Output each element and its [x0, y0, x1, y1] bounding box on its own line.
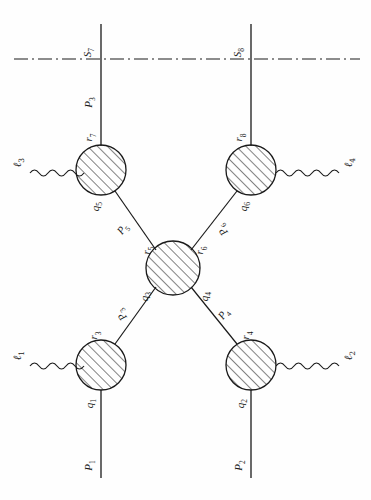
label-q6: q6 [237, 202, 252, 211]
diagonal-upper-right [191, 191, 237, 250]
label-l1: ℓ1 [11, 351, 26, 360]
label-q2: q2 [234, 399, 249, 408]
label-r3: r3 [87, 332, 102, 340]
label-r8: r8 [232, 134, 247, 142]
blob-upper-left [76, 145, 126, 195]
label-r4: r4 [239, 332, 254, 340]
label-l4: ℓ4 [342, 158, 357, 167]
label-l2: ℓ2 [342, 351, 357, 360]
blob-lower-left [76, 340, 126, 390]
wavy-line-upper-right [276, 170, 339, 176]
label-p2: P2 [232, 460, 247, 470]
label-q5: q5 [89, 202, 104, 211]
label-r6: r6 [193, 247, 208, 255]
label-r5: r5 [140, 247, 155, 255]
label-p1: P1 [82, 460, 97, 470]
label-q3: q3 [138, 292, 153, 301]
label-l3: ℓ3 [11, 158, 26, 167]
label-s7: S7 [81, 48, 96, 57]
label-p3-upper: P3 [82, 97, 97, 107]
label-r7: r7 [82, 134, 97, 142]
blob-lower-right [226, 340, 276, 390]
diagram-canvas: S7 S8 P3 r7 r8 ℓ3 ℓ4 q5 q6 P5 P6 r5 r6 q… [0, 0, 371, 500]
diagram-svg [0, 0, 371, 500]
wavy-line-lower-right [276, 363, 339, 369]
label-s8: S8 [231, 48, 246, 57]
label-q1: q1 [83, 399, 98, 408]
blob-upper-right [226, 145, 276, 195]
label-q4: q4 [198, 292, 213, 301]
